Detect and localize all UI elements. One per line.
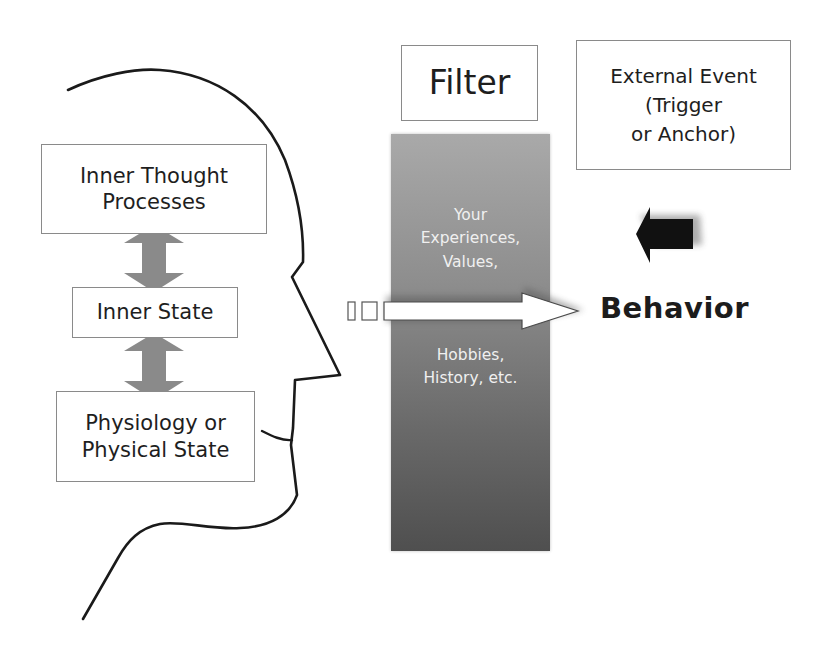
external-event-line-1: External Event: [610, 62, 757, 91]
external-event-line-3: or Anchor): [631, 120, 736, 149]
external-event-box: External Event (Trigger or Anchor): [576, 40, 791, 170]
left-arrow-icon: [636, 207, 702, 263]
external-event-line-2: (Trigger: [645, 91, 722, 120]
behavior-label: Behavior: [600, 291, 749, 325]
